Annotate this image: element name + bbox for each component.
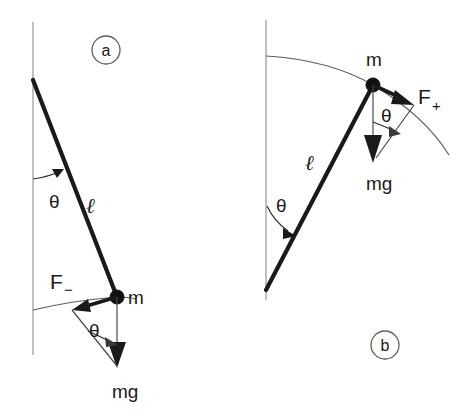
panel-a-force-subscript: − [64, 281, 73, 298]
panel-b-weight-label: mg [366, 173, 392, 194]
panel-a-weight-label: mg [112, 381, 138, 402]
panel-b-force-triangle-angle-arrowhead [389, 126, 401, 137]
panel-a-force-label: F [50, 270, 63, 293]
panel-a-pendulum-rod [33, 80, 117, 297]
figure-canvas: θ ℓ m F − mg θ a [0, 0, 471, 416]
panel-a-length-label: ℓ [86, 194, 95, 218]
panel-a: θ ℓ m F − mg θ a [33, 22, 144, 402]
panel-b-weight-arrowhead [364, 135, 382, 163]
panel-b-tangential-force-arrowhead [391, 90, 414, 105]
panel-b-force-subscript: + [432, 97, 441, 114]
panel-a-force-triangle-angle-label: θ [89, 320, 100, 341]
panel-b-length-label: ℓ [305, 151, 314, 175]
panel-b-pendulum-rod [266, 85, 373, 290]
panel-b-mass-label: m [366, 49, 382, 70]
panel-b-badge-label: b [381, 337, 390, 354]
physics-figure: θ ℓ m F − mg θ a [0, 0, 471, 416]
panel-b-force-label: F [418, 85, 431, 108]
panel-a-angle-label: θ [49, 191, 60, 212]
panel-b: θ ℓ m F + mg θ b [266, 20, 449, 359]
panel-a-mass-label: m [128, 287, 144, 308]
panel-a-badge-label: a [102, 42, 111, 59]
panel-b-force-triangle-angle-label: θ [381, 105, 392, 126]
panel-b-angle-label: θ [276, 195, 287, 216]
